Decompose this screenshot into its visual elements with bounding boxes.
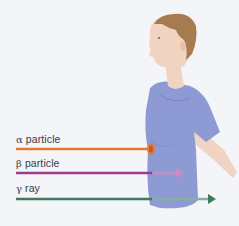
beta-label: βparticle [16,157,60,169]
alpha-name: particle [26,133,61,145]
eye [158,37,160,39]
beta-symbol: β [16,158,22,169]
gamma-name: ray [25,182,40,194]
ear [180,41,186,51]
gamma-symbol: γ [16,183,22,194]
alpha-symbol: α [16,134,23,145]
gamma-label: γray [16,182,40,194]
beta-name: particle [25,157,60,169]
head [149,14,197,69]
arrowhead-icon [208,194,216,204]
alpha-label: αparticle [16,133,61,145]
radiation-penetration-diagram: αparticle βparticle γray [0,0,239,226]
